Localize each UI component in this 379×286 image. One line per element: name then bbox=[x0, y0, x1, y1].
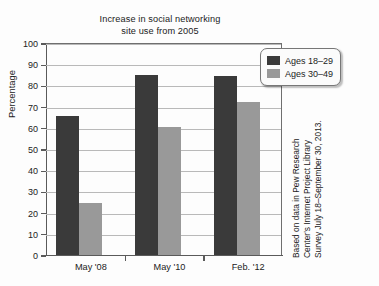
source-note: Based on data in Pew Research Center's I… bbox=[291, 120, 324, 258]
chart-title: Increase in social networking site use f… bbox=[60, 14, 260, 37]
y-axis-tick-label: 30 bbox=[28, 187, 38, 197]
y-axis-tick-mark bbox=[41, 149, 46, 150]
bar-series-0-category-1 bbox=[135, 75, 158, 255]
legend-swatch-icon-series-0 bbox=[267, 56, 280, 65]
chart-figure: Increase in social networking site use f… bbox=[0, 0, 379, 286]
y-axis-tick-mark bbox=[41, 86, 46, 87]
chart-title-line-2: site use from 2005 bbox=[60, 26, 260, 38]
y-axis-tick-mark bbox=[41, 192, 46, 193]
bar-series-1-category-1 bbox=[158, 127, 181, 255]
chart-legend: Ages 18–29 Ages 30–49 bbox=[260, 48, 341, 86]
bar-series-0-category-2 bbox=[214, 76, 237, 255]
y-axis-tick-mark bbox=[41, 43, 46, 44]
legend-item-1: Ages 30–49 bbox=[267, 67, 333, 80]
x-axis-tick-mark bbox=[125, 255, 126, 261]
y-axis-tick-label: 70 bbox=[28, 103, 38, 113]
bar-series-1-category-2 bbox=[237, 102, 260, 255]
source-note-line-1: Based on data in Pew Research bbox=[291, 120, 302, 258]
y-axis-tick-mark bbox=[41, 255, 46, 256]
y-axis-tick-label: 60 bbox=[28, 124, 38, 134]
y-axis-tick-label: 10 bbox=[28, 230, 38, 240]
y-axis-label: Percentage bbox=[6, 70, 17, 118]
legend-item-0: Ages 18–29 bbox=[267, 54, 333, 67]
gridline bbox=[46, 44, 281, 45]
y-axis-tick-mark bbox=[41, 65, 46, 66]
source-note-line-3: Survey July 18–September 30, 2013. bbox=[313, 120, 324, 258]
x-axis-tick-mark bbox=[203, 255, 204, 261]
x-axis-tick-label: May '10 bbox=[154, 262, 186, 272]
y-axis-tick-label: 20 bbox=[28, 209, 38, 219]
y-axis-tick-mark bbox=[41, 213, 46, 214]
y-axis-tick-mark bbox=[41, 128, 46, 129]
source-note-line-2: Center's Internet Project Library bbox=[302, 120, 313, 258]
y-axis-tick-label: 90 bbox=[28, 60, 38, 70]
bar-series-1-category-0 bbox=[79, 203, 102, 255]
y-axis-tick-mark bbox=[41, 107, 46, 108]
chart-title-line-1: Increase in social networking bbox=[60, 14, 260, 26]
y-axis-tick-label: 100 bbox=[23, 39, 38, 49]
y-axis-tick-label: 0 bbox=[33, 251, 38, 261]
x-axis-line bbox=[46, 255, 283, 256]
x-axis-tick-label: May '08 bbox=[75, 262, 107, 272]
legend-label-series-0: Ages 18–29 bbox=[285, 56, 333, 66]
y-axis-tick-label: 40 bbox=[28, 166, 38, 176]
plot-area: 1009080706050403020100 bbox=[46, 43, 282, 255]
y-axis-tick-mark bbox=[41, 171, 46, 172]
x-axis-tick-label: Feb. '12 bbox=[232, 262, 265, 272]
y-axis-tick-mark bbox=[41, 234, 46, 235]
gridline bbox=[46, 86, 281, 87]
y-axis-tick-label: 50 bbox=[28, 145, 38, 155]
bar-series-0-category-0 bbox=[56, 116, 79, 255]
legend-label-series-1: Ages 30–49 bbox=[285, 69, 333, 79]
y-axis-tick-label: 80 bbox=[28, 81, 38, 91]
legend-swatch-icon-series-1 bbox=[267, 69, 280, 78]
gridline bbox=[46, 65, 281, 66]
